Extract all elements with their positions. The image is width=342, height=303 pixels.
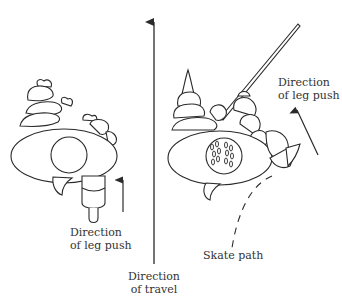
right-push-label-line2: of leg push <box>278 89 340 102</box>
skate-path-label: Skate path <box>203 249 263 262</box>
right-push-arrow <box>297 110 318 155</box>
skating-diagram: Direction of leg push Direction of trave… <box>0 0 342 303</box>
skate-path-curve <box>232 176 272 248</box>
diagram-drawing <box>0 0 342 303</box>
right-push-label-line1: Direction <box>278 76 340 89</box>
left-push-label-line2: of leg push <box>70 239 132 252</box>
left-push-label: Direction of leg push <box>70 226 132 252</box>
left-skater-figure <box>11 80 117 223</box>
travel-label-line1: Direction <box>126 270 182 283</box>
left-push-label-line1: Direction <box>70 226 132 239</box>
travel-direction-label: Direction of travel <box>126 270 182 296</box>
right-push-label: Direction of leg push <box>278 76 340 102</box>
right-skater-figure <box>168 24 300 200</box>
travel-label-line2: of travel <box>126 283 182 296</box>
